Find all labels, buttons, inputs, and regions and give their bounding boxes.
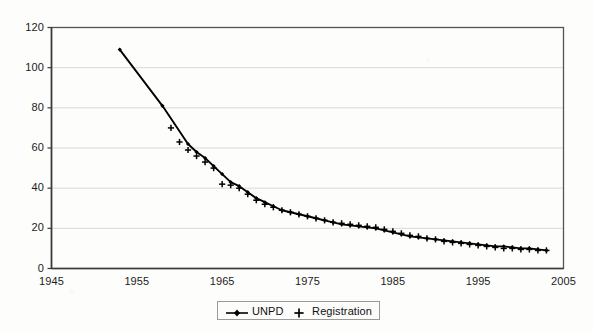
- y-axis-tick-label: 80: [4, 101, 44, 113]
- y-axis-tick-label: 0: [4, 262, 44, 274]
- y-axis-tick-label: 60: [4, 141, 44, 153]
- plus-marker-icon: [292, 305, 306, 317]
- x-axis-tick-label: 1985: [369, 275, 417, 287]
- y-axis-tick-label: 20: [4, 221, 44, 233]
- legend-label-unpd: UNPD: [252, 305, 284, 317]
- chart-legend: UNPD Registration: [217, 301, 380, 320]
- x-axis-tick-label: 2005: [540, 275, 588, 287]
- series-registration: [168, 125, 550, 254]
- x-axis-tick-label: 1955: [113, 275, 161, 287]
- series-unpd: [118, 47, 549, 252]
- chart-container: UNPD Registration 0204060801001201945195…: [0, 0, 594, 331]
- x-axis-tick-label: 1945: [28, 275, 76, 287]
- x-axis-tick-label: 1965: [198, 275, 246, 287]
- x-axis-tick-label: 1975: [284, 275, 332, 287]
- y-axis-tick-label: 40: [4, 181, 44, 193]
- y-axis-tick-label: 120: [4, 21, 44, 33]
- x-axis-tick-label: 1995: [454, 275, 502, 287]
- line-diamond-marker-icon: [225, 305, 249, 317]
- legend-label-registration: Registration: [312, 305, 372, 317]
- legend-entry-registration: Registration: [292, 302, 372, 319]
- legend-entry-unpd: UNPD: [225, 302, 284, 319]
- y-axis-tick-label: 100: [4, 61, 44, 73]
